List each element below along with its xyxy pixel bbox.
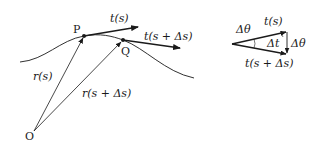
point-q-label: Q	[121, 45, 130, 58]
triangle-label-dtheta-right: Δθ	[290, 37, 306, 50]
triangle-label-dtheta: Δθ	[235, 23, 251, 36]
position-vector-r-s	[34, 38, 83, 131]
angle-arc	[254, 39, 255, 48]
tangent-vector-t-s	[84, 27, 138, 36]
curve-diagram: P Q O r(s) r(s + Δs) t(s) t(s + Δs) Δθ t…	[0, 0, 321, 148]
label-t-s-ds: t(s + Δs)	[144, 30, 192, 43]
point-q-dot	[121, 38, 125, 42]
point-p-label: P	[73, 23, 81, 36]
point-p-dot	[82, 34, 86, 38]
triangle-label-t-s: t(s)	[264, 15, 283, 28]
point-o-label: O	[25, 130, 34, 143]
angle-arc-right	[282, 33, 283, 37]
label-r-s: r(s)	[33, 70, 53, 83]
label-t-s: t(s)	[110, 12, 129, 25]
triangle-label-t-s-ds: t(s + Δs)	[245, 57, 293, 70]
label-r-s-ds: r(s + Δs)	[82, 87, 131, 100]
triangle-label-delta-t: Δt	[266, 37, 280, 50]
